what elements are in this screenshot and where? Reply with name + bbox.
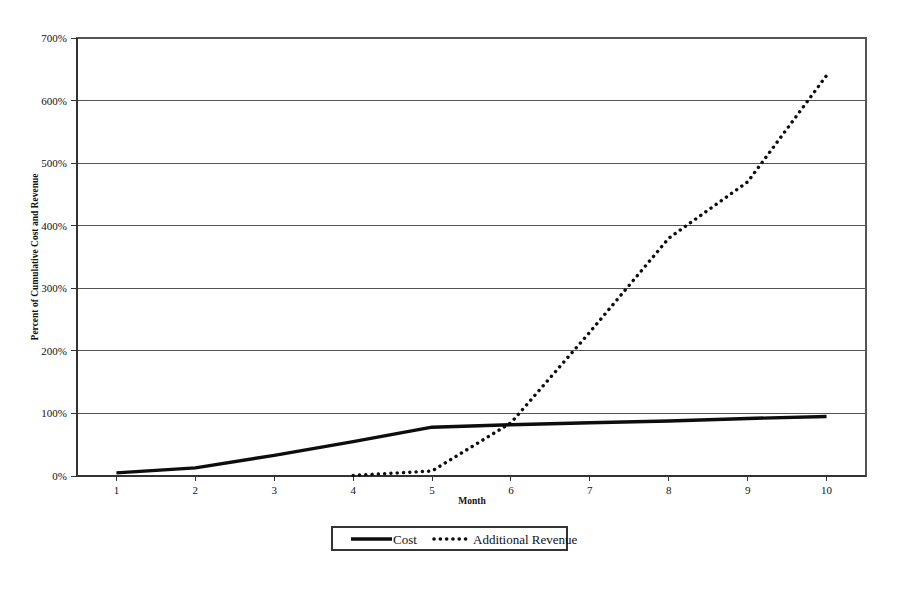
x-tick-label: 3 <box>272 484 278 496</box>
x-axis-title: Month <box>458 496 486 506</box>
y-axis-title: Percent of Cumulative Cost and Revenue <box>30 174 40 341</box>
gridlines <box>77 38 866 476</box>
x-tick-label: 9 <box>745 484 751 496</box>
chart-container: 0%100%200%300%400%500%600%700% 123456789… <box>0 0 897 589</box>
y-tick-label: 400% <box>41 220 67 232</box>
y-tick-label: 700% <box>41 32 67 44</box>
data-series-group <box>116 76 826 476</box>
y-tick-label: 500% <box>41 157 67 169</box>
series-cost <box>116 417 826 473</box>
legend-label-additional-revenue: Additional Revenue <box>473 532 578 547</box>
x-tick-label: 1 <box>114 484 120 496</box>
y-tick-label: 200% <box>41 345 67 357</box>
y-tick-label: 300% <box>41 282 67 294</box>
y-tick-label: 600% <box>41 95 67 107</box>
legend-label-cost: Cost <box>393 532 417 547</box>
x-axis-ticks: 12345678910 <box>114 476 833 496</box>
chart-legend: Cost Additional Revenue <box>332 527 578 550</box>
x-tick-label: 10 <box>821 484 833 496</box>
plot-area-border <box>77 38 866 476</box>
x-tick-label: 5 <box>429 484 435 496</box>
x-tick-label: 7 <box>587 484 593 496</box>
y-axis-ticks: 0%100%200%300%400%500%600%700% <box>41 32 77 482</box>
y-tick-label: 0% <box>52 470 67 482</box>
series-additional-revenue <box>353 76 826 476</box>
x-tick-label: 6 <box>508 484 514 496</box>
x-tick-label: 2 <box>193 484 199 496</box>
x-tick-label: 4 <box>350 484 356 496</box>
line-chart: 0%100%200%300%400%500%600%700% 123456789… <box>0 0 897 589</box>
x-tick-label: 8 <box>666 484 672 496</box>
y-tick-label: 100% <box>41 407 67 419</box>
